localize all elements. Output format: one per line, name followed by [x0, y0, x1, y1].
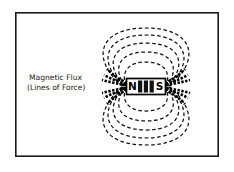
magnet-stripe-3	[150, 81, 154, 93]
magnetic-flux-diagram: N S Magnetic Flux (Lines of Force)	[0, 0, 234, 172]
flux-annotation: Magnetic Flux (Lines of Force)	[27, 73, 85, 92]
annotation-line-1: Magnetic Flux	[29, 73, 82, 82]
south-pole-label: S	[156, 80, 164, 92]
magnet-stripe-1	[138, 81, 142, 93]
bar-magnet: N S	[127, 79, 166, 95]
figure-root: N S Magnetic Flux (Lines of Force)	[0, 0, 234, 172]
magnet-stripe-2	[144, 81, 148, 93]
north-pole-label: N	[128, 80, 137, 92]
annotation-line-2: (Lines of Force)	[27, 83, 85, 92]
